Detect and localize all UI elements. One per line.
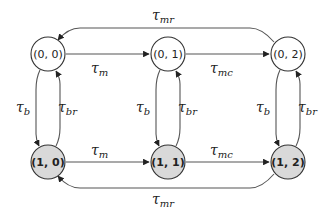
edge-n02-n12: [276, 70, 280, 146]
edge-n00-n10: [36, 70, 40, 146]
edge-label-n00-n10: τb: [16, 99, 30, 117]
edge-label-n12-n02: τbr: [298, 99, 318, 117]
edge-label-n11-n12: τmc: [210, 142, 233, 160]
node-1-0: (1, 0): [31, 145, 65, 179]
node-label: (0, 1): [153, 48, 183, 61]
edge-label-n02-n12: τb: [256, 99, 270, 117]
edge-label-n01-n11: τb: [136, 99, 150, 117]
edge-n01-n11: [156, 70, 160, 146]
node-label: (1, 0): [31, 156, 64, 169]
node-label: (0, 0): [33, 48, 63, 61]
node-0-1: (0, 1): [151, 37, 185, 71]
edge-label-n00-n01: τm: [91, 60, 108, 78]
node-label: (0, 2): [273, 48, 303, 61]
state-diagram: τm τmc τmr τm τmc τmr τb τbr τb τbr τb τ…: [0, 0, 329, 213]
node-1-1: (1, 1): [151, 145, 185, 179]
node-label: (1, 2): [271, 156, 304, 169]
node-0-2: (0, 2): [271, 37, 305, 71]
edge-label-n02-n00: τmr: [152, 7, 175, 25]
node-0-0: (0, 0): [31, 37, 65, 71]
node-label: (1, 1): [151, 156, 184, 169]
edge-label-n10-n11: τm: [91, 142, 108, 160]
edge-label-n12-n10: τmr: [152, 191, 175, 209]
edge-label-n10-n00: τbr: [58, 99, 78, 117]
edge-label-n11-n01: τbr: [178, 99, 198, 117]
node-1-2: (1, 2): [271, 145, 305, 179]
edge-label-n01-n02: τmc: [210, 60, 233, 78]
